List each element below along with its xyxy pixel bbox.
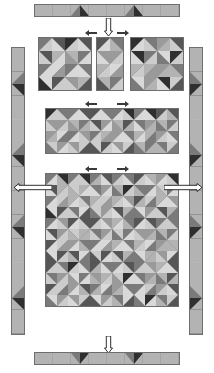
quilt-patch — [79, 185, 90, 196]
quilt-patch — [123, 174, 134, 185]
quilt-patch — [145, 174, 156, 185]
arrow-row2-left — [85, 101, 97, 107]
quilt-patch — [123, 218, 134, 229]
arrow-row2-right — [117, 101, 129, 107]
border-patch — [12, 96, 24, 120]
quilt-patch — [145, 273, 156, 284]
quilt-patch — [68, 262, 79, 273]
quilt-patch — [167, 120, 178, 131]
quilt-patch — [123, 262, 134, 273]
quilt-patch — [131, 64, 144, 77]
quilt-patch — [68, 120, 79, 131]
quilt-patch — [90, 142, 101, 153]
quilt-patch — [170, 38, 183, 51]
quilt-patch — [65, 38, 78, 51]
quilt-patch — [79, 284, 90, 295]
quilt-patch — [78, 38, 91, 51]
quilt-patch — [79, 218, 90, 229]
border-patch — [107, 5, 125, 16]
quilt-patch — [46, 262, 57, 273]
border-patch — [12, 48, 24, 72]
quilt-patch — [68, 240, 79, 251]
quilt-patch — [144, 64, 157, 77]
quilt-patch — [134, 174, 145, 185]
quilt-patch — [112, 207, 123, 218]
quilt-patch — [131, 77, 144, 90]
quilt-patch — [112, 120, 123, 131]
quilt-patch — [68, 218, 79, 229]
quilt-patch — [68, 196, 79, 207]
quilt-patch — [123, 120, 134, 131]
quilt-patch — [57, 229, 68, 240]
quilt-patch — [157, 51, 170, 64]
quilt-patch — [90, 240, 101, 251]
quilt-patch — [46, 131, 57, 142]
quilt-patch — [145, 109, 156, 120]
quilt-patch — [167, 207, 178, 218]
quilt-patch — [90, 109, 101, 120]
quilt-patch — [46, 196, 57, 207]
border-patch — [89, 5, 107, 16]
quilt-patch — [90, 196, 101, 207]
quilt-patch — [134, 240, 145, 251]
quilt-patch — [167, 251, 178, 262]
quilt-patch — [68, 207, 79, 218]
quilt-patch — [52, 38, 65, 51]
quilt-patch — [57, 273, 68, 284]
quilt-patch — [97, 51, 110, 64]
quilt-patch — [156, 240, 167, 251]
arrow-side-left — [14, 183, 52, 192]
quilt-patch — [134, 295, 145, 306]
quilt-patch — [39, 51, 52, 64]
quilt-patch — [101, 262, 112, 273]
quilt-patch — [39, 77, 52, 90]
quilt-patch — [123, 251, 134, 262]
quilt-patch — [57, 295, 68, 306]
quilt-patch — [145, 284, 156, 295]
quilt-patch — [101, 120, 112, 131]
quilt-patch — [68, 174, 79, 185]
quilt-patch — [101, 229, 112, 240]
quilt-patch — [57, 174, 68, 185]
quilt-patch — [65, 51, 78, 64]
quilt-patch — [52, 77, 65, 90]
quilt-patch — [97, 38, 110, 51]
quilt-patch — [123, 185, 134, 196]
quilt-patch — [123, 273, 134, 284]
quilt-patch — [78, 77, 91, 90]
border-patch — [190, 239, 202, 263]
quilt-patch — [101, 295, 112, 306]
quilt-patch — [112, 185, 123, 196]
quilt-patch — [57, 251, 68, 262]
quilt-patch — [101, 207, 112, 218]
quilt-patch — [134, 109, 145, 120]
quilt-patch — [144, 51, 157, 64]
arrow-row1-left — [85, 30, 97, 36]
sample-block-left — [38, 37, 92, 91]
border-patch — [12, 191, 24, 215]
quilt-patch — [68, 131, 79, 142]
quilt-patch — [144, 77, 157, 90]
quilt-patch — [68, 229, 79, 240]
quilt-patch — [134, 120, 145, 131]
quilt-patch — [134, 273, 145, 284]
border-patch — [71, 353, 89, 364]
bottom-border-strip — [34, 352, 180, 365]
quilt-patch — [97, 64, 110, 77]
quilt-patch — [57, 207, 68, 218]
quilt-patch — [68, 142, 79, 153]
quilt-patch — [170, 51, 183, 64]
border-patch — [125, 5, 143, 16]
quilt-patch — [157, 64, 170, 77]
quilt-centre — [45, 173, 179, 307]
border-patch — [161, 353, 179, 364]
quilt-patch — [90, 120, 101, 131]
quilt-patch — [101, 174, 112, 185]
quilt-patch — [52, 51, 65, 64]
border-patch — [89, 353, 107, 364]
quilt-patch — [145, 251, 156, 262]
quilt-patch — [101, 109, 112, 120]
quilt-patch — [123, 207, 134, 218]
quilt-patch — [110, 77, 123, 90]
quilt-patch — [79, 229, 90, 240]
